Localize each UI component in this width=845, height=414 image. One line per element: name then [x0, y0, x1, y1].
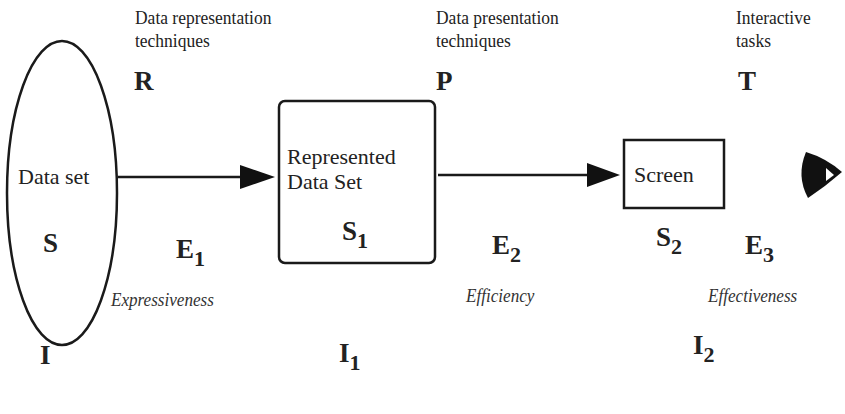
e3-subscript: 3 — [763, 242, 774, 267]
label-line: Represented — [287, 144, 396, 169]
e1-symbol: E — [176, 234, 194, 264]
i2-subscript: 2 — [704, 342, 715, 367]
e3-symbol: E — [745, 230, 763, 260]
criterion-effectiveness: Effectiveness — [708, 285, 797, 307]
e2-subscript: 2 — [510, 242, 521, 267]
e2-symbol: E — [492, 230, 510, 260]
caption-line: Data presentation — [436, 6, 559, 29]
s1-subscript: 1 — [357, 228, 368, 253]
symbol-t: T — [738, 66, 756, 97]
caption-line: tasks — [736, 29, 811, 52]
caption-line: techniques — [135, 29, 271, 52]
criterion-expressiveness: Expressiveness — [111, 289, 214, 311]
eye-icon — [801, 152, 842, 198]
info-i1: I1 — [339, 338, 361, 376]
symbol-p: P — [436, 66, 453, 97]
tasks-caption: Interactive tasks — [736, 6, 811, 52]
info-i2: I2 — [693, 330, 715, 368]
caption-line: Interactive — [736, 6, 811, 29]
s2-subscript: 2 — [671, 234, 682, 259]
label-line: Data Set — [287, 169, 396, 194]
i1-subscript: 1 — [350, 350, 361, 375]
symbol-s: S — [43, 228, 58, 259]
diagram-shapes — [0, 0, 845, 414]
presentation-caption: Data presentation techniques — [436, 6, 559, 52]
evaluation-e1: E1 — [176, 234, 205, 272]
arrow-head-1 — [240, 165, 275, 189]
caption-line: techniques — [436, 29, 559, 52]
criterion-efficiency: Efficiency — [466, 285, 534, 307]
representation-caption: Data representation techniques — [135, 6, 271, 52]
evaluation-e2: E2 — [492, 230, 521, 268]
caption-line: Data representation — [135, 6, 271, 29]
i2-symbol: I — [693, 330, 704, 360]
screen-label: Screen — [634, 162, 694, 187]
symbol-r: R — [134, 66, 154, 97]
info-i: I — [40, 340, 51, 371]
s1-symbol: S — [342, 216, 357, 246]
e1-subscript: 1 — [194, 246, 205, 271]
symbol-s2: S2 — [656, 222, 682, 260]
represented-label: Represented Data Set — [287, 144, 396, 194]
arrow-head-2 — [587, 163, 620, 187]
data-set-ellipse — [7, 41, 117, 345]
i1-symbol: I — [339, 338, 350, 368]
data-set-label: Data set — [18, 164, 89, 189]
s2-symbol: S — [656, 222, 671, 252]
evaluation-e3: E3 — [745, 230, 774, 268]
symbol-s1: S1 — [342, 216, 368, 254]
